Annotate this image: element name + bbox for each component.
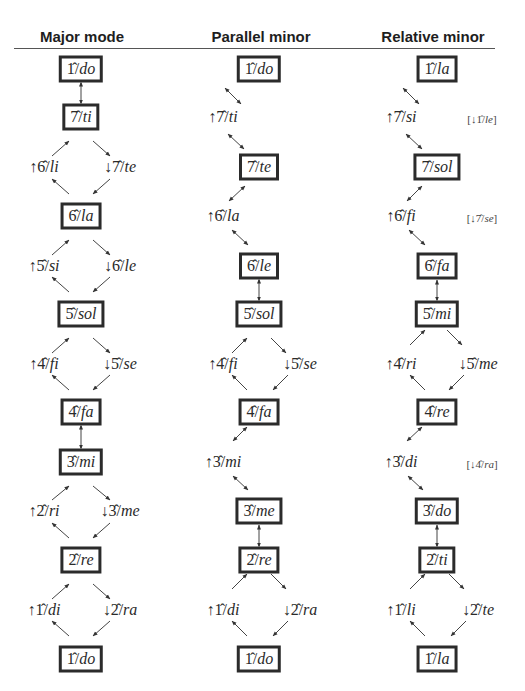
arrow-icon xyxy=(410,574,425,589)
arrow-icon xyxy=(93,338,110,353)
degree-label: ↑2̂/ xyxy=(28,502,48,519)
arrow-icon xyxy=(52,523,69,538)
scale-degree-box-parallel-11: 3̂/me xyxy=(235,498,282,525)
altered-degree-parallel-13: ↑1̂/di xyxy=(207,601,240,619)
double-arrow-icon xyxy=(403,88,419,104)
degree-label: ↑5̂/ xyxy=(28,257,48,274)
solfege-syllable: te xyxy=(124,158,136,175)
degree-label: 6̂/ xyxy=(247,257,259,274)
solfege-syllable: fa xyxy=(259,403,271,420)
double-arrow-icon xyxy=(409,230,425,245)
double-arrow-icon xyxy=(406,134,422,149)
altered-degree-major-17: ↓2̂/ra xyxy=(103,601,138,619)
solfege-syllable: ri xyxy=(49,502,60,519)
double-arrow-icon xyxy=(225,88,241,104)
solfege-syllable: di xyxy=(405,453,417,470)
solfege-syllable: do xyxy=(257,60,273,77)
degree-label: 3̂/ xyxy=(67,453,79,470)
altered-degree-major-10: ↓5̂/se xyxy=(103,355,137,373)
degree-label: 1̂/ xyxy=(425,60,437,77)
solfege-syllable: te xyxy=(482,601,494,618)
solfege-syllable: do xyxy=(257,650,273,667)
arrow-icon xyxy=(271,338,286,353)
solfege-syllable: sol xyxy=(256,305,275,322)
double-arrow-icon xyxy=(407,186,422,201)
degree-label: 2̂/ xyxy=(68,551,80,568)
altered-degree-relative-8: ↓5̂/me xyxy=(458,355,497,373)
arrow-icon xyxy=(410,375,425,390)
solfege-syllable: fa xyxy=(81,403,93,420)
bracket-annotation-1: [↓1̂/le] xyxy=(467,113,496,125)
degree-label: 1̂/ xyxy=(425,650,437,667)
degree-label: 3̂/ xyxy=(423,502,435,519)
solfege-syllable: mi xyxy=(435,305,451,322)
degree-label: 1̂/ xyxy=(67,60,79,77)
degree-label: 4̂/ xyxy=(424,403,436,420)
altered-degree-major-13: ↑2̂/ri xyxy=(28,502,59,520)
arrow-icon xyxy=(449,375,464,390)
degree-label: 1̂/ xyxy=(67,650,79,667)
degree-label: 6̂/ xyxy=(425,257,437,274)
solfege-syllable: la xyxy=(81,207,93,224)
altered-degree-major-7: ↓6̂/le xyxy=(104,257,136,275)
bracket-annotation-3: [↓4̂/ra] xyxy=(466,458,497,470)
arrow-icon xyxy=(451,621,466,636)
header-major-mode: Major mode xyxy=(40,28,124,45)
degree-label: ↑4̂/ xyxy=(208,355,228,372)
header-parallel-minor: Parallel minor xyxy=(211,28,310,45)
degree-label: ↓6̂/ xyxy=(104,257,124,274)
solfege-syllable: ti xyxy=(439,551,448,568)
header-rule xyxy=(14,48,495,49)
solfege-syllable: sol xyxy=(434,158,453,175)
degree-label: 4̂/ xyxy=(69,403,81,420)
scale-degree-box-parallel-1: 1̂/do xyxy=(237,56,281,83)
altered-degree-parallel-4: ↑6̂/la xyxy=(207,207,240,225)
degree-label: 5̂/ xyxy=(423,305,435,322)
altered-degree-relative-4: ↑6̂/fi xyxy=(386,207,415,225)
arrow-icon xyxy=(93,523,110,538)
degree-label: 7̂/ xyxy=(247,158,259,175)
scale-degree-box-relative-12: 2̂/ti xyxy=(418,547,455,574)
solfege-syllable: fa xyxy=(437,257,449,274)
arrow-icon xyxy=(52,338,69,353)
solfege-syllable: fi xyxy=(50,355,59,372)
scale-degree-box-major-12: 3̂/mi xyxy=(59,449,103,476)
solfege-syllable: fi xyxy=(229,355,238,372)
degree-label: ↓5̂/ xyxy=(103,355,123,372)
solfege-syllable: sol xyxy=(78,305,97,322)
arrow-icon xyxy=(410,621,425,636)
degree-label: 5̂/ xyxy=(65,305,77,322)
solfege-syllable: le xyxy=(124,257,136,274)
solfege-syllable: re xyxy=(81,551,94,568)
scale-degree-box-parallel-3: 7̂/te xyxy=(239,154,279,181)
scale-degree-box-major-8: 5̂/sol xyxy=(57,301,104,328)
solfege-syllable: te xyxy=(259,158,271,175)
arrow-icon xyxy=(273,375,288,390)
arrow-icon xyxy=(93,584,110,599)
degree-label: ↓7̂/ xyxy=(104,158,124,175)
degree-label: ↑3̂/ xyxy=(205,453,225,470)
altered-degree-major-14: ↓3̂/me xyxy=(100,502,139,520)
double-arrow-icon xyxy=(233,476,248,490)
solfege-syllable: si xyxy=(406,108,417,125)
scale-degree-box-parallel-9: 4̂/fa xyxy=(239,399,280,426)
degree-label: 2̂/ xyxy=(426,551,438,568)
degree-label: ↑7̂/ xyxy=(385,108,405,125)
solfege-syllable: re xyxy=(259,551,272,568)
arrow-icon xyxy=(447,330,462,345)
degree-label: ↓5̂/ xyxy=(458,355,478,372)
degree-label: ↑3̂/ xyxy=(385,453,405,470)
altered-degree-parallel-10: ↑3̂/mi xyxy=(205,453,241,471)
arrow-icon xyxy=(232,574,247,589)
bracket-annotation-2: [↓7̂/se] xyxy=(467,212,498,224)
scale-degree-box-major-5: 6̂/la xyxy=(61,203,102,230)
solfege-syllable: la xyxy=(437,60,449,77)
arrow-icon xyxy=(273,621,288,636)
scale-degree-box-major-1: 1̂/do xyxy=(59,56,103,83)
altered-degree-relative-7: ↑4̂/ri xyxy=(385,355,416,373)
scale-degree-box-relative-15: 1̂/la xyxy=(417,646,458,673)
solfege-syllable: ri xyxy=(406,355,417,372)
degree-label: 4̂/ xyxy=(247,403,259,420)
degree-label: ↑4̂/ xyxy=(385,355,405,372)
double-arrow-icon xyxy=(408,476,423,490)
